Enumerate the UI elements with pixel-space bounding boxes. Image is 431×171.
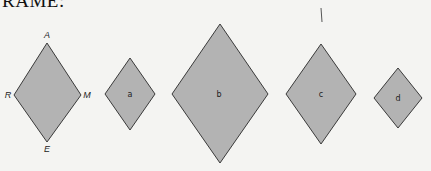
shape-label-d: d xyxy=(395,94,400,103)
rhombus-d: d xyxy=(374,68,422,128)
rhombus-rame-shape xyxy=(14,43,81,142)
stray-mark xyxy=(321,8,322,22)
shape-label-c: c xyxy=(319,90,323,99)
vertex-label-a: A xyxy=(43,30,50,40)
rhombus-a: a xyxy=(105,58,155,130)
rhombus-b: b xyxy=(172,24,268,163)
shape-label-b: b xyxy=(216,90,221,99)
rhombus-figure: A R M E a b c d xyxy=(0,0,431,171)
vertex-label-r: R xyxy=(5,90,12,100)
rhombus-c: c xyxy=(286,44,356,144)
vertex-label-m: M xyxy=(83,90,91,100)
shape-label-a: a xyxy=(128,90,133,99)
vertex-label-e: E xyxy=(44,144,51,154)
rhombus-rame: A R M E xyxy=(5,30,92,154)
